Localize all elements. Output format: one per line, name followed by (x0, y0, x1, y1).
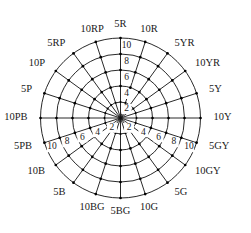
grid-node (110, 104, 112, 106)
grid-node (104, 122, 106, 124)
hue-label-10YR: 10YR (195, 57, 220, 68)
grid-node (183, 117, 186, 120)
grid-node (157, 65, 160, 68)
grid-node (180, 136, 183, 139)
hue-spoke-10P (56, 71, 121, 118)
grid-node (135, 112, 137, 114)
grid-node (119, 53, 122, 56)
grid-node (171, 154, 174, 157)
chroma-tick-up-8: 8 (124, 56, 129, 66)
hue-spoke-5Y (121, 93, 197, 118)
grid-node (107, 108, 109, 110)
grid-node (165, 102, 168, 105)
chroma-tick-up-10: 10 (122, 40, 132, 50)
grid-node (104, 71, 107, 74)
hue-label-10PB: 10PB (4, 111, 27, 122)
grid-node (89, 107, 92, 110)
grid-node (166, 181, 169, 184)
grid-node (150, 127, 153, 130)
grid-node (158, 88, 161, 91)
grid-node (184, 70, 187, 73)
grid-node (55, 117, 58, 120)
grid-node (104, 112, 106, 114)
grid-node (115, 102, 117, 104)
grid-node (171, 79, 174, 82)
grid-node (74, 102, 77, 105)
hue-label-5GY: 5GY (209, 140, 230, 151)
hue-label-10P: 10P (29, 57, 46, 68)
hue-label-5R: 5R (114, 18, 126, 29)
hue-label-10R: 10R (140, 23, 158, 34)
grid-node (134, 162, 137, 165)
hue-label-5PB: 5PB (14, 140, 32, 151)
grid-node (167, 117, 170, 120)
grid-node (165, 131, 168, 134)
grid-node (67, 79, 70, 82)
grid-node (119, 69, 122, 72)
grid-node (120, 133, 122, 135)
hue-label-5G: 5G (175, 186, 188, 197)
hue-circle-plot: 5R10R5YR10YR5Y10Y5GY10GY5G10G5BG10BG5B10… (0, 0, 251, 233)
hue-label-5BG: 5BG (111, 205, 131, 216)
grid-node (54, 70, 57, 73)
grid-node (134, 71, 137, 74)
chroma-tick-up-6: 6 (124, 72, 129, 82)
grid-node (100, 143, 103, 146)
grid-node (80, 145, 83, 148)
grid-node (157, 168, 160, 171)
grid-node (147, 155, 150, 158)
grid-node (82, 168, 85, 171)
hue-spoke-5P (44, 93, 120, 118)
grid-node (129, 147, 132, 150)
grid-node (87, 117, 90, 120)
grid-node (136, 117, 138, 119)
grid-node (150, 107, 153, 110)
grid-node (139, 178, 142, 181)
hue-label-10RP: 10RP (80, 23, 104, 34)
chroma-tick-lower-right-6: 6 (156, 132, 161, 142)
chroma-tick-lower-right-8: 8 (171, 136, 176, 146)
grid-node (184, 164, 187, 167)
grid-node (151, 117, 154, 120)
hue-label-5RP: 5RP (47, 37, 65, 48)
grid-node (104, 162, 107, 165)
grid-node (91, 155, 94, 158)
grid-node (147, 78, 150, 81)
grid-node (119, 181, 122, 184)
grid-node (119, 149, 122, 152)
grid-node (43, 92, 46, 95)
grid-node (120, 101, 122, 103)
hue-label-5YR: 5YR (175, 37, 195, 48)
hue-label-5B: 5B (53, 186, 65, 197)
hue-label-5P: 5P (21, 83, 32, 94)
grid-node (67, 154, 70, 157)
grid-node (119, 37, 122, 40)
grid-node (99, 178, 102, 181)
grid-node (199, 117, 202, 120)
hue-spoke-10RP (96, 42, 121, 118)
grid-node (54, 164, 57, 167)
grid-node (195, 141, 198, 144)
grid-node (145, 98, 148, 101)
grid-node (138, 143, 141, 146)
grid-node (158, 145, 161, 148)
grid-node (89, 127, 92, 130)
grid-node (94, 193, 97, 196)
grid-node (93, 98, 96, 101)
munsell-hue-circle-chart: 5R10R5YR10YR5Y10Y5GY10GY5G10G5BG10BG5B10… (0, 0, 251, 233)
grid-node (82, 65, 85, 68)
grid-node (119, 85, 122, 88)
chroma-tick-up-2: 2 (124, 103, 129, 113)
grid-node (94, 41, 97, 44)
grid-node (109, 86, 112, 89)
grid-node (180, 97, 183, 100)
grid-node (71, 117, 74, 120)
grid-node (129, 86, 132, 89)
grid-node (144, 41, 147, 44)
grid-node (166, 52, 169, 55)
grid-node (72, 181, 75, 184)
chroma-tick-lower-left-8: 8 (65, 136, 70, 146)
grid-node (100, 91, 103, 94)
grid-node (144, 193, 147, 196)
grid-node (74, 131, 77, 134)
